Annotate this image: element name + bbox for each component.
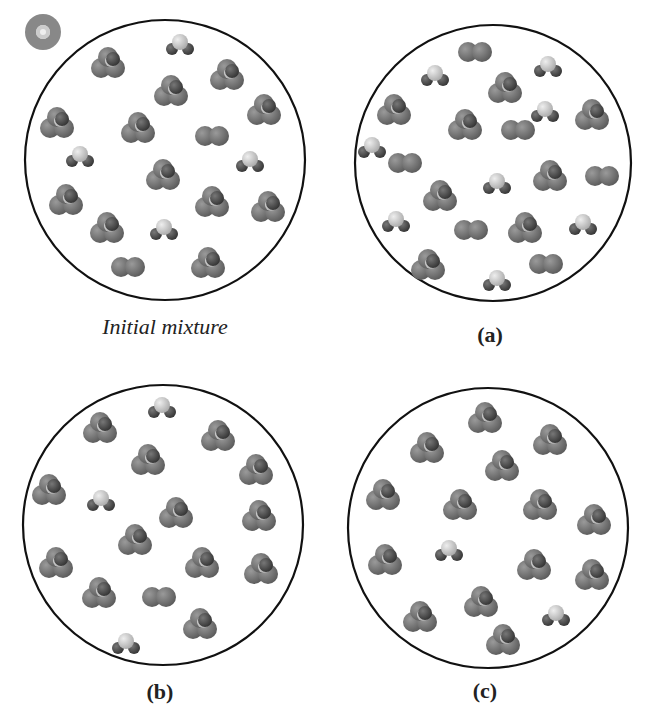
molecule-small	[112, 633, 140, 654]
molecule-big	[448, 109, 482, 140]
panel-initial	[25, 20, 305, 300]
molecule-big	[118, 524, 152, 555]
molecule-big	[83, 412, 117, 443]
molecule-o2	[195, 126, 229, 146]
molecule-big	[39, 547, 73, 578]
molecule-small	[87, 490, 115, 511]
molecule-big	[185, 547, 219, 578]
molecule-small	[236, 151, 264, 172]
molecule-o2	[585, 166, 619, 186]
molecule-small	[531, 101, 559, 122]
molecule-big	[486, 624, 520, 655]
molecule-big	[523, 489, 557, 520]
molecule-o2	[111, 257, 145, 277]
molecule-big	[32, 474, 66, 505]
molecule-o2	[458, 42, 492, 62]
molecule-small	[421, 65, 449, 86]
molecule-small	[150, 219, 178, 240]
panel-label-initial: Initial mixture	[45, 314, 285, 340]
panel-a	[355, 25, 631, 301]
molecule-big	[159, 497, 193, 528]
molecule-big	[247, 94, 281, 125]
molecule-big	[90, 212, 124, 243]
molecule-big	[49, 184, 83, 215]
molecule-big	[195, 186, 229, 217]
molecule-big	[366, 479, 400, 510]
molecule-big	[244, 553, 278, 584]
molecule-big	[82, 577, 116, 608]
molecule-small	[569, 214, 597, 235]
molecule-big	[191, 247, 225, 278]
molecule-big	[464, 586, 498, 617]
panels-canvas	[0, 0, 656, 728]
molecule-small	[435, 540, 463, 561]
molecule-big	[533, 160, 567, 191]
molecule-o2	[529, 254, 563, 274]
molecule-big	[468, 402, 502, 433]
molecule-big	[517, 549, 551, 580]
molecule-big	[411, 249, 445, 280]
molecule-big	[443, 489, 477, 520]
molecule-small	[148, 397, 176, 418]
panel-label-a: (a)	[370, 322, 610, 348]
molecule-o2	[454, 220, 488, 240]
molecule-big	[239, 454, 273, 485]
molecule-big	[183, 608, 217, 639]
panel-label-b: (b)	[40, 679, 280, 705]
molecule-big	[508, 212, 542, 243]
molecule-big	[210, 59, 244, 90]
panel-b	[23, 385, 303, 665]
molecule-small	[66, 146, 94, 167]
molecule-big	[40, 107, 74, 138]
molecule-big	[410, 432, 444, 463]
molecule-big	[121, 112, 155, 143]
molecule-big	[575, 99, 609, 130]
molecule-small	[534, 56, 562, 77]
molecule-small	[166, 34, 194, 55]
molecule-big	[131, 444, 165, 475]
molecule-big	[423, 180, 457, 211]
panel-c	[348, 388, 628, 668]
panel-label-c: (c)	[365, 678, 605, 704]
molecule-o2	[142, 587, 176, 607]
molecule-o2	[388, 153, 422, 173]
molecule-big	[91, 47, 125, 78]
molecule-big	[154, 75, 188, 106]
molecule-o2	[501, 120, 535, 140]
molecule-small	[358, 137, 386, 158]
molecule-big	[485, 450, 519, 481]
molecule-big	[201, 420, 235, 451]
molecule-big	[575, 559, 609, 590]
molecule-big	[377, 94, 411, 125]
figure: Initial mixture(a)(b)(c)	[0, 0, 656, 728]
molecule-big	[488, 72, 522, 103]
molecule-big	[251, 191, 285, 222]
molecule-small	[382, 211, 410, 232]
molecule-big	[533, 424, 567, 455]
molecule-big	[146, 159, 180, 190]
molecule-big	[577, 504, 611, 535]
molecule-big	[242, 500, 276, 531]
molecule-small	[542, 605, 570, 626]
molecule-big	[403, 601, 437, 632]
molecule-small	[483, 270, 511, 291]
molecule-small	[483, 173, 511, 194]
molecule-big	[368, 544, 402, 575]
